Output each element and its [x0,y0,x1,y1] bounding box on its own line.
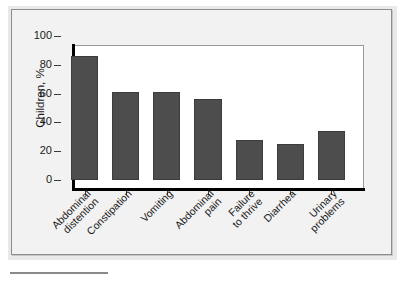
y-tick-mark [54,65,61,66]
y-tick-label-text: 20 [20,145,52,156]
y-tick-label: 20 [18,145,52,156]
bar [112,92,139,180]
bar [236,140,263,180]
y-tick-label-text: 80 [20,59,52,70]
y-tick-mark [54,180,61,181]
y-tick-mark [54,94,61,95]
x-axis-line [72,188,365,191]
chart-panel: Children, % 020406080100 Abdominal diste… [11,9,392,255]
y-tick-label-text: 100 [20,30,52,41]
bar [194,99,221,180]
bar [318,131,345,180]
y-tick-mark [54,151,61,152]
caption-rule [10,272,108,274]
bar [153,92,180,180]
y-tick-label: 80 [18,59,52,70]
y-tick-label: 100 [18,30,52,41]
y-tick-mark [54,36,61,37]
y-tick-mark [54,122,61,123]
bar [71,56,98,180]
y-tick-label: 0 [18,174,52,185]
y-tick-label-text: 60 [20,88,52,99]
bar [277,144,304,180]
figure-container: Children, % 020406080100 Abdominal diste… [0,0,405,285]
y-tick-label: 40 [18,116,52,127]
y-tick-label-text: 0 [20,174,52,185]
y-tick-label: 60 [18,88,52,99]
y-tick-label-text: 40 [20,116,52,127]
